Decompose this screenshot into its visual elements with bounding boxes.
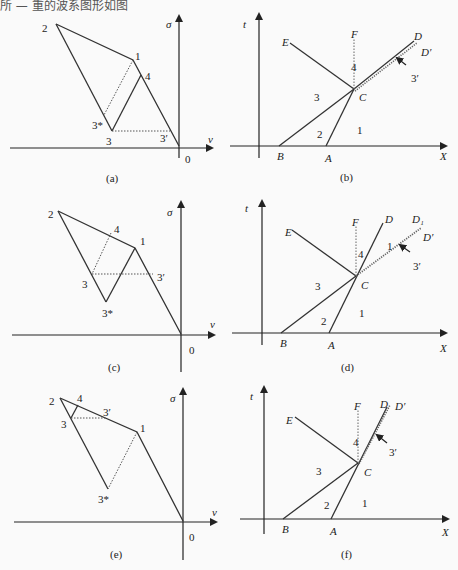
region-1: 1	[362, 497, 368, 509]
point-D-prime: D′	[420, 46, 432, 58]
point-E: E	[285, 414, 293, 426]
point-D1: D₁	[411, 213, 424, 225]
path-2-3star	[60, 398, 108, 489]
t-axis-label: t	[250, 390, 254, 402]
point-A: A	[329, 525, 337, 537]
path-3star-1	[106, 248, 135, 302]
point-F: F	[351, 216, 359, 228]
point-B: B	[277, 150, 284, 162]
region-1: 1	[357, 124, 363, 136]
line-AC	[326, 89, 354, 146]
point-label-2: 2	[42, 22, 48, 34]
line-CE	[295, 417, 358, 463]
point-E: E	[284, 226, 292, 238]
point-C: C	[364, 466, 372, 478]
line-CE	[290, 43, 354, 89]
point-D-prime: D′	[422, 231, 434, 243]
point-label-3star: 3*	[102, 307, 113, 319]
origin-label: 0	[189, 531, 195, 543]
point-B: B	[282, 523, 289, 535]
label-3prime: 3′	[389, 446, 397, 458]
point-label-3: 3	[82, 278, 88, 290]
caption-c: (c)	[108, 361, 121, 374]
point-F: F	[353, 400, 361, 412]
line-CE	[292, 230, 356, 276]
point-label-3star: 3*	[92, 119, 103, 131]
caption-a: (a)	[106, 172, 119, 185]
point-A: A	[327, 339, 335, 351]
sigma-axis-label: σ	[166, 18, 172, 30]
point-label-3: 3	[106, 135, 112, 147]
path-0-1-2	[56, 24, 179, 146]
panel-f-x-t-diagram: t X E F D D′ C B A 1 2 3 4 3′ (f)	[240, 387, 450, 561]
v-axis-label: v	[208, 133, 213, 145]
origin-label: 0	[189, 344, 195, 356]
line-CD-prime	[359, 405, 390, 464]
caption-b: (b)	[340, 171, 353, 184]
panel-c-sigma-v-diagram: 2 1 4 3* 3 3′ σ v 0 (c)	[12, 202, 215, 374]
point-label-3prime: 3′	[157, 271, 165, 283]
path-0-1-2	[60, 398, 183, 521]
region-3: 3	[316, 465, 322, 477]
line-CD-prime	[355, 43, 417, 91]
wave-diagram-figure: 2 1 4 3* 3 3′ σ v 0 (a) t X E F D D′ C B…	[0, 0, 458, 570]
point-A: A	[324, 152, 332, 164]
point-F: F	[350, 28, 358, 40]
region-2: 2	[324, 499, 330, 511]
arrow-3prime	[377, 435, 387, 443]
sigma-axis-label: σ	[167, 206, 173, 218]
panel-b-x-t-diagram: t X E F D D′ C B A 1 2 3 4 3′ (b)	[230, 14, 448, 184]
point-D: D	[384, 213, 393, 225]
point-B: B	[280, 337, 287, 349]
point-D: D	[379, 398, 388, 410]
label-3prime: 3′	[411, 72, 419, 84]
x-axis-label: X	[441, 526, 450, 538]
arrow-3prime	[397, 58, 406, 65]
region-1-upper: 1	[387, 240, 393, 252]
point-label-4: 4	[114, 223, 120, 235]
point-label-3: 3	[61, 418, 67, 430]
sigma-axis-label: σ	[170, 392, 176, 404]
path-3-4	[71, 405, 78, 418]
point-D: D	[413, 30, 422, 42]
point-label-4: 4	[77, 392, 83, 404]
panel-e-sigma-v-diagram: 2 1 4 3* 3 3′ σ v 0 (e)	[14, 389, 217, 561]
caption-f: (f)	[341, 548, 352, 561]
dotted-1-3star	[108, 432, 137, 489]
region-4: 4	[358, 248, 364, 260]
line-CD1-dotted	[356, 228, 421, 276]
dotted-1-3star	[104, 60, 133, 115]
line-CD	[354, 41, 414, 89]
point-label-3prime: 3′	[103, 406, 111, 418]
point-label-1: 1	[135, 50, 141, 62]
v-axis-label: v	[210, 318, 215, 330]
region-4: 4	[353, 436, 359, 448]
arrow-3prime	[400, 245, 410, 252]
t-axis-label: t	[243, 18, 247, 30]
path-2-3	[56, 24, 112, 131]
t-axis-label: t	[245, 202, 249, 214]
label-3prime: 3′	[413, 260, 421, 272]
point-E: E	[281, 36, 289, 48]
point-D-prime: D′	[394, 400, 406, 412]
region-2: 2	[321, 315, 327, 327]
region-3: 3	[314, 91, 320, 103]
region-4: 4	[351, 61, 357, 73]
panel-d-x-t-diagram: t X E F D D₁ D′ C B A 1 1 2 3 4 3′ (d)	[232, 201, 448, 374]
dotted-4-3	[92, 233, 111, 274]
path-3-4	[112, 75, 141, 131]
origin-label: 0	[185, 153, 191, 165]
panel-a-sigma-v-diagram: 2 1 4 3* 3 3′ σ v 0 (a)	[10, 16, 213, 185]
region-3: 3	[315, 280, 321, 292]
point-label-4: 4	[145, 70, 151, 82]
x-axis-label: X	[439, 342, 448, 354]
point-label-3prime: 3′	[160, 132, 168, 144]
point-C: C	[361, 279, 369, 291]
point-label-1: 1	[140, 235, 146, 247]
point-label-3star: 3*	[98, 493, 109, 505]
x-axis-label: X	[439, 150, 448, 162]
region-1: 1	[359, 307, 365, 319]
point-C: C	[359, 91, 367, 103]
point-label-1: 1	[140, 422, 146, 434]
region-2: 2	[317, 128, 323, 140]
